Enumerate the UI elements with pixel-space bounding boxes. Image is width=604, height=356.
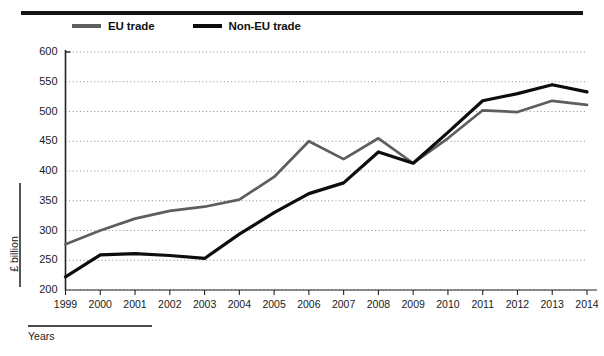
x-tick-label: 2014	[567, 299, 604, 310]
series-line-non-eu-trade	[66, 85, 588, 277]
plot-area: 200250300350400450500550600 199920002001…	[0, 0, 604, 356]
x-axis-title-rule	[28, 325, 152, 327]
y-tick-label: 300	[24, 225, 58, 236]
y-tick-label: 550	[24, 76, 58, 87]
y-tick-label: 600	[24, 46, 58, 57]
x-axis-title: Years	[28, 330, 54, 342]
data-series-lines	[66, 85, 588, 277]
y-tick-label: 350	[24, 195, 58, 206]
y-tick-label: 200	[24, 284, 58, 295]
x-tick-marks	[66, 290, 588, 295]
y-axis-title: £ billion	[8, 224, 20, 284]
y-tick-label: 500	[24, 106, 58, 117]
y-tick-label: 250	[24, 254, 58, 265]
series-line-eu-trade	[66, 101, 588, 244]
y-tick-label: 450	[24, 135, 58, 146]
y-tick-label: 400	[24, 165, 58, 176]
chart-figure: EU trade Non-EU trade 200250300350400450…	[0, 0, 604, 356]
